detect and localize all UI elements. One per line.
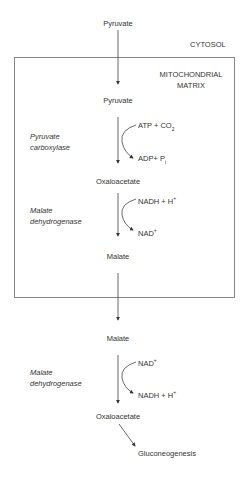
malate-cytosol: Malate: [107, 334, 130, 343]
oxaloacetate-matrix: Oxaloacetate: [96, 177, 140, 186]
enzyme-mdh-cytosol-line1: Malate: [30, 368, 53, 377]
oxaloacetate-cytosol: Oxaloacetate: [96, 412, 140, 421]
matrix-label-line1: MITOCHONDRIAL: [160, 70, 223, 79]
malate-matrix: Malate: [107, 252, 130, 261]
matrix-label-line2: MATRIX: [177, 81, 205, 90]
enzyme-pc-line1: Pyruvate: [30, 132, 60, 141]
cofactor-adp-pi: ADP+ Pi: [138, 154, 166, 165]
cofactor-atp-co2: ATP + CO2: [138, 121, 174, 132]
cytosol-label: CYTOSOL: [190, 40, 226, 49]
pyruvate-matrix: Pyruvate: [103, 96, 133, 105]
enzyme-mdh-matrix-line2: dehydrogenase: [30, 217, 82, 226]
enzyme-mdh-matrix-line1: Malate: [30, 206, 53, 215]
pyruvate-cytosol: Pyruvate: [103, 19, 133, 28]
cofactor-nad-in: NAD+: [138, 357, 157, 368]
enzyme-pc-line2: carboxylase: [30, 143, 70, 152]
cofactor-nad: NAD+: [138, 227, 157, 238]
enzyme-mdh-cytosol-line2: dehydrogenase: [30, 379, 82, 388]
cofactor-nadh-out: NADH + H+: [138, 389, 176, 400]
gluconeogenesis-label: Gluconeogenesis: [138, 449, 196, 458]
cofactor-nadh-h: NADH + H+: [138, 195, 176, 206]
